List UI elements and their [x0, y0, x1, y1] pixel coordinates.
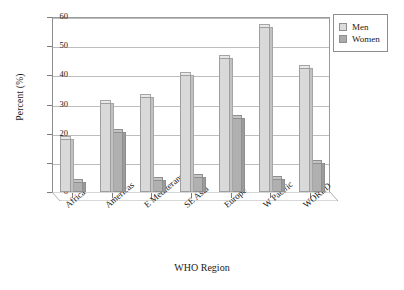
- bar-side-face: [71, 139, 74, 192]
- bar-men-americas: [100, 103, 111, 192]
- bar-front-face: [180, 75, 191, 192]
- bar-side-face: [242, 118, 245, 192]
- bar-side-face: [230, 58, 233, 192]
- bar-side-face: [191, 75, 194, 192]
- x-axis-title: WHO Region: [0, 262, 404, 273]
- bar-side-face: [83, 182, 86, 192]
- legend-swatch-men: [339, 23, 347, 31]
- legend-item-women: Women: [339, 34, 380, 44]
- y-axis-title: Percent (%): [15, 51, 25, 143]
- bar-side-face: [163, 180, 166, 192]
- bar-men-se-asia: [180, 75, 191, 192]
- bar-side-face: [111, 103, 114, 192]
- bar-front-face: [299, 68, 310, 192]
- bar-men-europe: [219, 58, 230, 192]
- bar-front-face: [100, 103, 111, 192]
- bar-side-face: [322, 163, 325, 192]
- bar-front-face: [60, 139, 71, 192]
- bar-side-face: [123, 132, 126, 192]
- bar-men-w-pacific: [259, 27, 270, 192]
- bar-front-face: [259, 27, 270, 192]
- bar-side-face: [203, 177, 206, 192]
- legend-swatch-women: [339, 35, 347, 43]
- chart-legend: MenWomen: [333, 14, 388, 52]
- bar-side-face: [282, 179, 285, 192]
- bar-side-face: [270, 27, 273, 192]
- legend-label: Men: [352, 22, 369, 32]
- y-tick-mark: [47, 192, 52, 193]
- bar-side-face: [310, 68, 313, 192]
- bar-front-face: [140, 97, 151, 192]
- bar-front-face: [219, 58, 230, 192]
- bar-men-africa: [60, 139, 71, 192]
- bar-side-face: [151, 97, 154, 192]
- chart-figure: 0102030405060 Percent (%) AfricaAmericas…: [0, 0, 404, 290]
- legend-label: Women: [352, 34, 380, 44]
- legend-item-men: Men: [339, 22, 380, 32]
- bars-layer: [52, 17, 330, 192]
- bar-men-world: [299, 68, 310, 192]
- bar-men-e-mediteranrean: [140, 97, 151, 192]
